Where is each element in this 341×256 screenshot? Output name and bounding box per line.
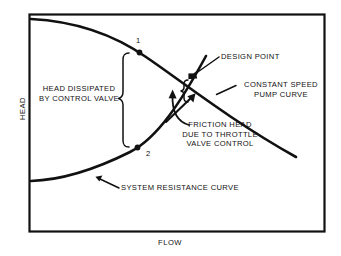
- system-resistance-leader: [100, 179, 119, 188]
- design-point-annotation: DESIGN POINT: [221, 52, 280, 62]
- pump-curve-diagram: HEAD FLOW 1 2 HEAD DISSIPATED BY CONTROL…: [0, 0, 341, 256]
- plot-frame: [30, 15, 325, 232]
- diagram-canvas: [0, 0, 341, 256]
- x-axis-label: FLOW: [140, 238, 200, 247]
- head-dissipated-annotation: HEAD DISSIPATED BY CONTROL VALVE: [37, 84, 121, 103]
- friction-head-annotation: FRICTION HEAD DUE TO THROTTLE VALVE CONT…: [178, 120, 262, 149]
- system-resistance-curve-annotation: SYSTEM RESISTANCE CURVE: [121, 183, 239, 193]
- operating-point-1-marker: [137, 50, 143, 56]
- operating-point-2-label: 2: [146, 149, 151, 159]
- operating-point-2-marker: [135, 145, 141, 151]
- operating-point-1-label: 1: [136, 36, 141, 46]
- design-point-leader: [194, 57, 220, 75]
- y-axis-label: HEAD: [18, 89, 27, 129]
- constant-speed-leader: [217, 86, 237, 95]
- friction-head-curved-arrow-head: [169, 90, 177, 99]
- constant-speed-pump-curve-annotation: CONSTANT SPEED PUMP CURVE: [238, 80, 324, 99]
- system-resistance-leader-head: [95, 176, 102, 182]
